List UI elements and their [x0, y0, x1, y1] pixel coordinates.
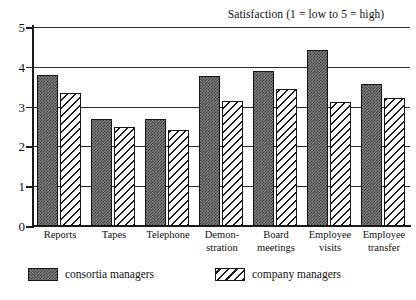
- legend-item-consortia-managers: consortia managers: [28, 268, 154, 281]
- tickmark-3: [26, 107, 33, 109]
- x-axis-label: Employeevisits: [303, 229, 357, 254]
- tickmark-1: [26, 186, 33, 188]
- tickmark-0: [26, 226, 33, 228]
- bar: [330, 102, 352, 226]
- y-tick-label-1: 1: [5, 180, 25, 193]
- bar: [222, 101, 244, 226]
- tickmark-4: [26, 67, 33, 69]
- gridline-5: [32, 27, 410, 28]
- gridline-4: [32, 67, 410, 68]
- bar: [168, 130, 190, 226]
- bar: [276, 89, 298, 226]
- y-tick-label-4: 4: [5, 60, 25, 73]
- chart-title: Satisfaction (1 = low to 5 = high): [196, 7, 416, 21]
- y-tick-label-2: 2: [5, 140, 25, 153]
- tickmark-2: [26, 146, 33, 148]
- x-axis-label: Demon-stration: [195, 229, 249, 254]
- x-axis-label: Telephone: [141, 229, 195, 242]
- bar: [307, 50, 329, 226]
- chart-legend: consortia managers company managers: [0, 268, 416, 292]
- y-tick-label-5: 5: [5, 21, 25, 34]
- plot-area: 012345: [32, 27, 410, 226]
- legend-label-company-managers: company managers: [252, 268, 341, 281]
- legend-label-consortia-managers: consortia managers: [65, 268, 154, 281]
- x-axis-label: Employeetransfer: [357, 229, 411, 254]
- legend-swatch-consortia-managers: [28, 268, 58, 281]
- bar: [253, 71, 275, 226]
- legend-item-company-managers: company managers: [215, 268, 341, 281]
- bar: [60, 93, 82, 226]
- bar-chart: Satisfaction (1 = low to 5 = high) 01234…: [0, 0, 416, 300]
- x-axis-label: Boardmeetings: [249, 229, 303, 254]
- x-axis-label: Tapes: [87, 229, 141, 242]
- y-tick-label-3: 3: [5, 100, 25, 113]
- bar: [384, 98, 406, 226]
- y-tick-label-0: 0: [5, 220, 25, 233]
- bar: [145, 119, 167, 226]
- tickmark-5: [26, 27, 33, 29]
- bar: [199, 76, 221, 226]
- bar: [37, 75, 59, 226]
- bar: [91, 119, 113, 226]
- x-axis-label: Reports: [33, 229, 87, 242]
- bar: [361, 84, 383, 226]
- legend-swatch-company-managers: [215, 268, 245, 281]
- bar: [114, 127, 136, 227]
- x-axis-labels: ReportsTapesTelephoneDemon-strationBoard…: [33, 229, 411, 265]
